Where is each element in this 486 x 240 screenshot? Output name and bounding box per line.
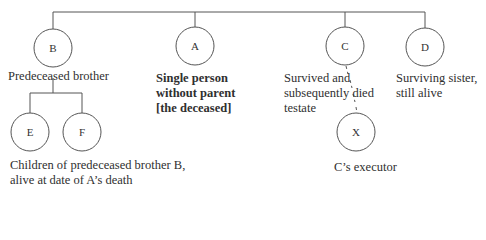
node-a-caption-line-3: [the deceased] bbox=[156, 101, 231, 115]
node-b-letter: B bbox=[49, 42, 56, 54]
node-c-caption-line-1: Survived and bbox=[284, 71, 350, 85]
node-d-caption-line-1: Surviving sister, bbox=[396, 71, 477, 85]
node-c-letter: C bbox=[341, 40, 348, 52]
node-x-caption: C’s executor bbox=[334, 160, 397, 174]
node-x-letter: X bbox=[352, 126, 360, 138]
node-d-caption-line-2: still alive bbox=[396, 86, 442, 100]
node-d-letter: D bbox=[421, 41, 429, 53]
children-caption-line-2: alive at date of A’s death bbox=[10, 173, 133, 187]
node-a-caption-line-1: Single person bbox=[156, 71, 228, 85]
children-caption-line-1: Children of predeceased brother B, bbox=[10, 158, 185, 172]
node-e-letter: E bbox=[27, 126, 34, 138]
node-a-caption-line-2: without parent bbox=[156, 86, 235, 100]
node-c-caption-line-2: subsequently died bbox=[284, 86, 374, 100]
node-c-caption-line-3: testate bbox=[284, 101, 316, 115]
node-a-letter: A bbox=[191, 40, 199, 52]
node-b-caption: Predeceased brother bbox=[8, 69, 109, 83]
node-f-letter: F bbox=[79, 126, 85, 138]
